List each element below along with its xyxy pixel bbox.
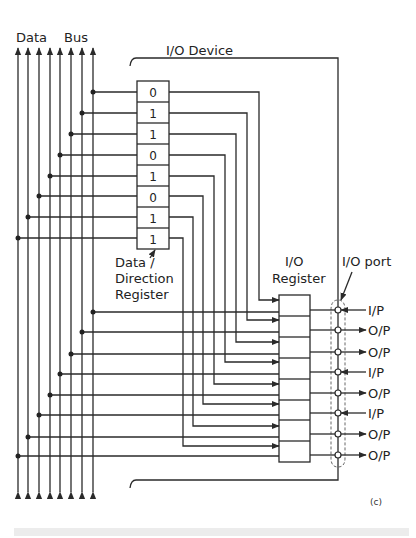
io-port-diagram: Data Bus I/O Device 0 1 1 0 1 0 1 1 bbox=[0, 0, 416, 538]
ddr-label-1: Data / bbox=[115, 255, 155, 270]
ddr-bit-4: 1 bbox=[149, 170, 157, 184]
port-direction-0: I/P bbox=[368, 303, 384, 318]
port-direction-6: O/P bbox=[368, 427, 391, 442]
io-device-boundary: I/O Device bbox=[130, 43, 338, 488]
figure-tag: (c) bbox=[370, 497, 382, 507]
port-direction-7: O/P bbox=[368, 448, 391, 463]
io-device-label: I/O Device bbox=[166, 43, 233, 58]
ddr-bit-3: 0 bbox=[149, 149, 157, 163]
io-port-label: I/O port bbox=[342, 254, 391, 269]
port-direction-2: O/P bbox=[368, 345, 391, 360]
port-direction-1: O/P bbox=[368, 323, 391, 338]
ddr-label-3: Register bbox=[115, 287, 169, 302]
data-bus-label-2: Bus bbox=[64, 30, 88, 45]
ddr-bit-5: 0 bbox=[149, 191, 157, 205]
ddr-control-lines bbox=[169, 92, 279, 446]
ddr-bit-1: 1 bbox=[149, 107, 157, 121]
port-direction-4: O/P bbox=[368, 386, 391, 401]
ddr-bit-0: 0 bbox=[149, 86, 157, 100]
io-register bbox=[279, 295, 310, 462]
data-bus-label-1: Data bbox=[16, 30, 47, 45]
ddr-bit-2: 1 bbox=[149, 128, 157, 142]
io-register-label-2: Register bbox=[272, 271, 326, 286]
io-register-label-1: I/O bbox=[285, 254, 303, 269]
port-direction-3: I/P bbox=[368, 365, 384, 380]
bottom-band bbox=[14, 528, 409, 536]
ddr-label-2: Direction bbox=[115, 271, 174, 286]
data-direction-register: 0 1 1 0 1 0 1 1 bbox=[137, 81, 169, 249]
io-port: I/P O/P O/P I/P O/P I/P O/P O/P bbox=[310, 300, 391, 467]
ddr-bit-6: 1 bbox=[149, 212, 157, 226]
port-direction-5: I/P bbox=[368, 406, 384, 421]
ddr-bit-7: 1 bbox=[149, 233, 157, 247]
bus-to-ddr-lines bbox=[16, 90, 138, 241]
